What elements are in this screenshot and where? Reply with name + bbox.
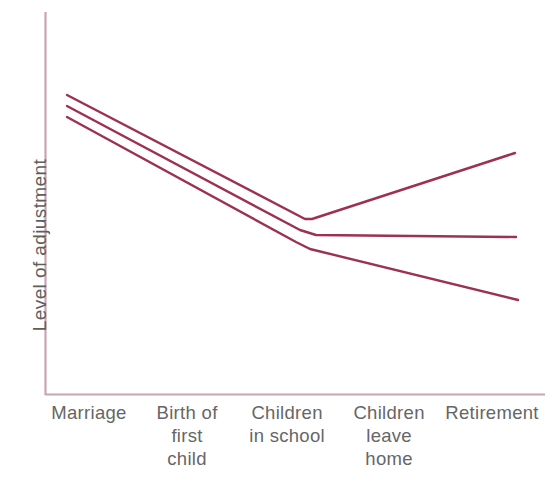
x-axis-tick-labels: Marriage Birth of first child Children i… <box>38 401 546 479</box>
x-tick-line: Children <box>353 401 424 424</box>
x-tick-line: leave <box>366 424 412 447</box>
chart-figure: Level of adjustment Marriage Birth of fi… <box>0 0 555 481</box>
x-tick-line: Children <box>251 401 322 424</box>
y-axis-label: Level of adjustment <box>23 80 57 410</box>
x-tick-children-leave-home: Children leave home <box>340 401 438 470</box>
x-tick-line: home <box>365 447 412 470</box>
series-line-lower <box>67 117 518 300</box>
x-tick-line: first <box>171 424 202 447</box>
x-tick-birth-of-first-child: Birth of first child <box>140 401 234 470</box>
x-tick-line: Birth of <box>157 401 218 424</box>
series-line-upper <box>67 95 515 219</box>
x-tick-line: child <box>167 447 207 470</box>
x-tick-line: in school <box>249 424 325 447</box>
x-tick-marriage: Marriage <box>38 401 140 424</box>
series-line-middle <box>67 106 516 237</box>
x-tick-line: Marriage <box>51 401 126 424</box>
x-tick-retirement: Retirement <box>438 401 546 424</box>
x-tick-children-in-school: Children in school <box>234 401 340 447</box>
x-tick-line: Retirement <box>445 401 538 424</box>
